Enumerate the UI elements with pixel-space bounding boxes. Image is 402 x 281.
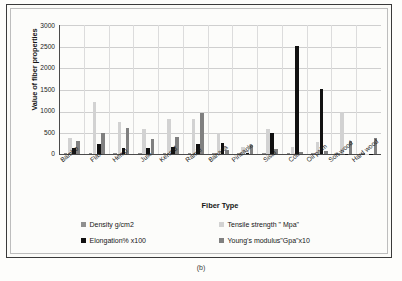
x-tick-oil-palm: Oil palm <box>307 156 332 200</box>
bar-group-hemp <box>110 25 135 154</box>
bar-group-pineaple <box>233 25 258 154</box>
bar-flax-series-3 <box>101 133 105 154</box>
x-tick-ramie: Ramie <box>183 156 208 200</box>
legend-swatch-icon <box>81 222 86 227</box>
x-tick-bambo: Bambo <box>59 156 84 200</box>
x-tick-banana: Banana <box>208 156 233 200</box>
bar-group-oil-palm <box>308 25 333 154</box>
legend-item-0[interactable]: Density g/cm2 <box>81 221 213 228</box>
y-tick-1000: 1000 <box>29 108 55 114</box>
legend-swatch-icon <box>219 222 224 227</box>
x-tick-sisal: Sisal <box>257 156 282 200</box>
legend-label: Tensile strength " Mpa" <box>228 221 300 228</box>
y-tick-2000: 2000 <box>29 65 55 71</box>
y-tick-1500: 1500 <box>29 87 55 93</box>
legend-item-3[interactable]: Young's modulus"Gpa"x10 <box>219 237 351 244</box>
legend-label: Elongation% x100 <box>90 237 146 244</box>
x-tick-coir: Coir <box>282 156 307 200</box>
bar-jute-series-0 <box>138 153 142 154</box>
legend-label: Density g/cm2 <box>90 221 134 228</box>
y-axis-tick-labels: 3000 2500 2000 1500 1000 500 0 <box>29 9 55 159</box>
chart-plot-area: Value of fiber properties 3000 2500 2000… <box>11 9 391 257</box>
x-tick-soft-wood: Soft wood <box>331 156 356 200</box>
x-tick-hard-wood: Hard wood <box>356 156 381 200</box>
bar-group-flax <box>85 25 110 154</box>
bar-soft-wood-series-2 <box>345 154 349 155</box>
figure-frame: Value of fiber properties 3000 2500 2000… <box>6 4 392 258</box>
bar-group-jute <box>134 25 159 154</box>
bar-oil-palm-series-3 <box>324 151 328 154</box>
x-tick-jute: Jute <box>133 156 158 200</box>
x-tick-pineaple: Pineaple <box>232 156 257 200</box>
bar-jute-series-1 <box>142 129 146 154</box>
legend-item-1[interactable]: Tensile strength " Mpa" <box>219 221 351 228</box>
x-tick-flax: Flax <box>84 156 109 200</box>
y-tick-3000: 3000 <box>29 23 55 29</box>
figure-inner-border: Value of fiber properties 3000 2500 2000… <box>10 8 388 254</box>
x-tick-hemp: Hemp <box>109 156 134 200</box>
legend-item-2[interactable]: Elongation% x100 <box>81 237 213 244</box>
figure-page: Value of fiber properties 3000 2500 2000… <box>0 0 402 281</box>
bar-hard-wood-series-2 <box>369 154 373 155</box>
x-axis-title: Fiber Type <box>59 201 381 210</box>
legend-swatch-icon <box>81 238 86 243</box>
bar-group-soft-wood <box>332 25 357 154</box>
bar-group-kennaf <box>159 25 184 154</box>
legend-swatch-icon <box>219 238 224 243</box>
bar-coir-series-2 <box>295 46 299 154</box>
x-tick-kennaf: Kennaf <box>158 156 183 200</box>
bar-group-bambo <box>60 25 85 154</box>
bar-flax-series-1 <box>93 102 97 154</box>
bar-group-ramie <box>184 25 209 154</box>
bar-group-banana <box>209 25 234 154</box>
y-tick-500: 500 <box>29 130 55 136</box>
bar-group-coir <box>283 25 308 154</box>
bar-group-sisal <box>258 25 283 154</box>
x-axis-tick-labels: BamboFlaxHempJuteKennafRamieBananaPineap… <box>59 156 381 200</box>
y-tick-2500: 2500 <box>29 44 55 50</box>
bar-group-hard-wood <box>357 25 381 154</box>
bar-jute-series-3 <box>151 139 155 154</box>
chart-axes <box>59 25 381 155</box>
y-tick-0: 0 <box>29 151 55 157</box>
legend-label: Young's modulus"Gpa"x10 <box>228 237 310 244</box>
bar-groups <box>60 25 381 154</box>
figure-caption: (b) <box>0 264 402 271</box>
chart-legend: Density g/cm2Tensile strength " Mpa"Elon… <box>81 221 351 244</box>
